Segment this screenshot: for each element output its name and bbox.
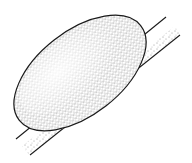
droplet-on-incline-diagram [0,0,192,163]
droplet [0,0,167,154]
